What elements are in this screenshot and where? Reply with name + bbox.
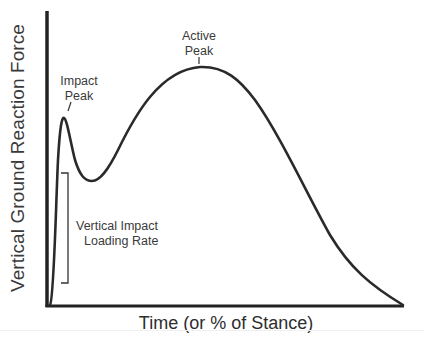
y-axis-label: Vertical Ground Reaction Force	[7, 24, 29, 292]
grf-curve	[50, 67, 403, 305]
active-peak-label-line1: Active	[182, 29, 216, 44]
grf-diagram: Vertical Ground Reaction Force Time (or …	[0, 0, 424, 342]
active-peak-label: Active Peak	[182, 29, 216, 59]
loading-rate-label-line1: Vertical Impact	[76, 219, 158, 234]
loading-rate-bracket	[61, 173, 68, 283]
bottom-divider	[0, 330, 424, 331]
loading-rate-label-line2: Loading Rate	[76, 234, 158, 249]
impact-peak-label-line1: Impact	[60, 74, 98, 89]
loading-rate-label: Vertical Impact Loading Rate	[76, 219, 158, 249]
impact-peak-label-line2: Peak	[60, 89, 98, 104]
impact-peak-label: Impact Peak	[60, 74, 98, 104]
active-peak-label-line2: Peak	[182, 44, 216, 59]
